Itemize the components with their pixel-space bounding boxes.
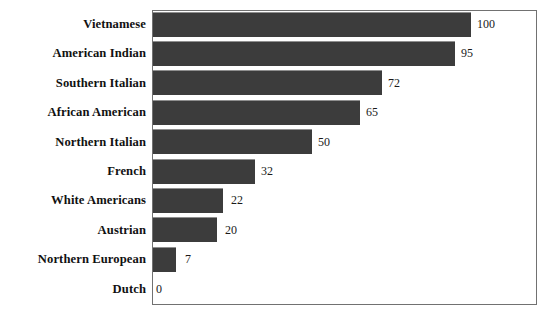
category-label: Dutch: [0, 275, 146, 304]
bar[interactable]: [153, 70, 382, 95]
bar-value-label: 95: [461, 39, 473, 67]
bar-value-label: 72: [388, 69, 400, 97]
bar-value-label: 20: [225, 216, 237, 244]
bar-track: 7: [153, 245, 553, 274]
bar[interactable]: [153, 129, 312, 154]
bar-value-label: 0: [156, 275, 162, 303]
bar-track: 20: [153, 216, 553, 245]
bar-value-label: 32: [261, 157, 273, 185]
chart-row: Vietnamese 100: [0, 10, 553, 39]
bar-chart-figure: Vietnamese 100 American Indian 95 Southe…: [0, 0, 553, 325]
bar-track: 50: [153, 128, 553, 157]
bar-track: 72: [153, 69, 553, 98]
category-label: Northern European: [0, 245, 146, 274]
bar[interactable]: [153, 41, 455, 66]
chart-row: White Americans 22: [0, 186, 553, 215]
bar-value-label: 50: [318, 128, 330, 156]
category-label: French: [0, 157, 146, 186]
category-label: African American: [0, 98, 146, 127]
category-label: American Indian: [0, 39, 146, 68]
chart-row: African American 65: [0, 98, 553, 127]
chart-row: Austrian 20: [0, 216, 553, 245]
bar[interactable]: [153, 159, 255, 184]
chart-row: Southern Italian 72: [0, 69, 553, 98]
chart-row: French 32: [0, 157, 553, 186]
chart-row: Northern Italian 50: [0, 128, 553, 157]
bar[interactable]: [153, 188, 223, 213]
category-label: Northern Italian: [0, 128, 146, 157]
bar-track: 95: [153, 39, 553, 68]
bar[interactable]: [153, 100, 360, 125]
category-label: Austrian: [0, 216, 146, 245]
bar-value-label: 7: [185, 245, 191, 273]
bar-value-label: 65: [366, 98, 378, 126]
chart-row: American Indian 95: [0, 39, 553, 68]
bar[interactable]: [153, 217, 217, 242]
category-label: Vietnamese: [0, 10, 146, 39]
bar[interactable]: [153, 12, 471, 37]
bar-track: 100: [153, 10, 553, 39]
chart-row: Dutch 0: [0, 275, 553, 304]
bar-track: 22: [153, 186, 553, 215]
category-label: Southern Italian: [0, 69, 146, 98]
bar[interactable]: [153, 247, 176, 272]
bar-value-label: 22: [231, 186, 243, 214]
category-label: White Americans: [0, 186, 146, 215]
chart-row: Northern European 7: [0, 245, 553, 274]
bar-value-label: 100: [477, 10, 495, 38]
bar-track: 0: [153, 275, 553, 304]
bar-track: 65: [153, 98, 553, 127]
bar-track: 32: [153, 157, 553, 186]
